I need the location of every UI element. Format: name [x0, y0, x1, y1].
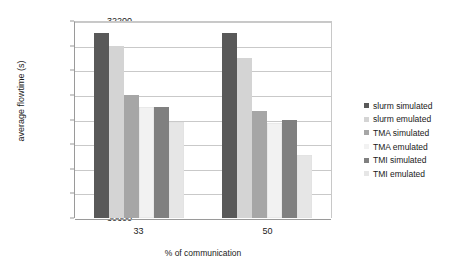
- legend-label: slurm simulated: [373, 101, 433, 111]
- bar: [252, 111, 267, 218]
- legend-item[interactable]: TMA emulated: [364, 140, 468, 154]
- bar: [297, 155, 312, 218]
- bar: [267, 123, 282, 218]
- legend-item[interactable]: TMI emulated: [364, 167, 468, 181]
- legend-swatch-icon: [364, 103, 369, 108]
- bar: [282, 120, 297, 219]
- bar: [94, 33, 109, 218]
- legend-label: TMA simulated: [373, 128, 429, 138]
- bar-group: [75, 22, 203, 218]
- legend-swatch-icon: [364, 171, 369, 176]
- legend-label: TMI emulated: [373, 169, 425, 179]
- legend-label: slurm emulated: [373, 114, 431, 124]
- plot-area: [74, 21, 332, 218]
- legend-swatch-icon: [364, 158, 369, 163]
- x-tick-label: 50: [203, 226, 332, 236]
- x-tick-label: 33: [74, 226, 203, 236]
- legend: slurm simulatedslurm emulatedTMA simulat…: [364, 99, 468, 181]
- bar: [154, 107, 169, 218]
- bar: [237, 58, 252, 218]
- legend-item[interactable]: TMA simulated: [364, 126, 468, 140]
- bar-group: [203, 22, 331, 218]
- y-axis-title: average flowtime (s): [16, 46, 26, 156]
- legend-swatch-icon: [364, 117, 369, 122]
- bar: [169, 122, 184, 218]
- legend-swatch-icon: [364, 144, 369, 149]
- legend-item[interactable]: slurm emulated: [364, 113, 468, 127]
- x-axis-title: % of communication: [74, 248, 332, 258]
- x-axis-tick-labels: 3350: [74, 226, 332, 236]
- gridline: [75, 219, 331, 220]
- legend-label: TMI simulated: [373, 155, 426, 165]
- bar: [139, 107, 154, 218]
- legend-label: TMA emulated: [373, 142, 428, 152]
- legend-item[interactable]: TMI simulated: [364, 153, 468, 167]
- bar-groups: [75, 22, 331, 218]
- legend-swatch-icon: [364, 130, 369, 135]
- bar: [109, 46, 124, 218]
- legend-item[interactable]: slurm simulated: [364, 99, 468, 113]
- bar-chart: average flowtime (s) 3220032000318003160…: [0, 0, 469, 270]
- bar: [124, 95, 139, 218]
- bar: [222, 33, 237, 218]
